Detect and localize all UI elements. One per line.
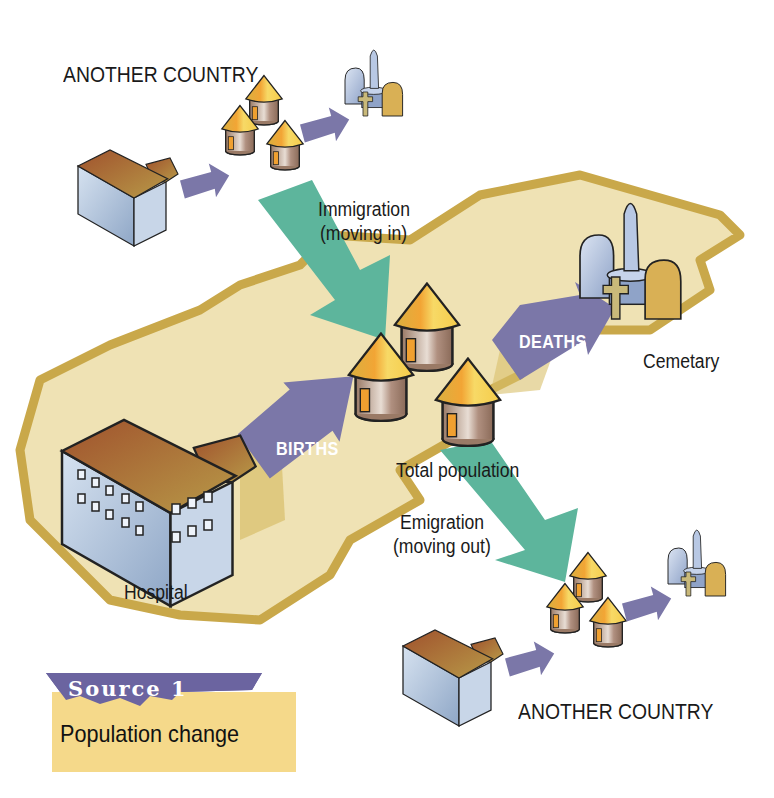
huts-icon — [222, 76, 303, 170]
cemetery-label: Cemetary — [643, 350, 719, 372]
deaths-arrow-label: DEATHS — [519, 331, 587, 353]
flow-arrow-icon — [180, 164, 229, 199]
cemetery-icon — [345, 50, 403, 116]
flow-arrow-icon — [505, 642, 554, 677]
total-population-label: Total population — [396, 459, 519, 481]
cemetery-icon — [668, 530, 726, 596]
emigration-sublabel: (moving out) — [393, 535, 491, 557]
immigration-sublabel: (moving in) — [320, 222, 407, 244]
another-country-top-label: ANOTHER COUNTRY — [63, 63, 258, 87]
immigration-label: Immigration — [318, 198, 410, 220]
emigration-label: Emigration — [400, 511, 484, 533]
building-icon — [403, 630, 503, 726]
hospital-label: Hospital — [124, 581, 188, 603]
births-arrow-label: BIRTHS — [276, 438, 339, 460]
building-icon — [78, 150, 178, 246]
flow-arrow-icon — [622, 587, 671, 622]
caption-title: Population change — [60, 720, 239, 748]
source-label: Source 1 — [68, 676, 188, 701]
flow-arrow-icon — [300, 108, 349, 143]
another-country-bottom-label: ANOTHER COUNTRY — [518, 700, 713, 724]
